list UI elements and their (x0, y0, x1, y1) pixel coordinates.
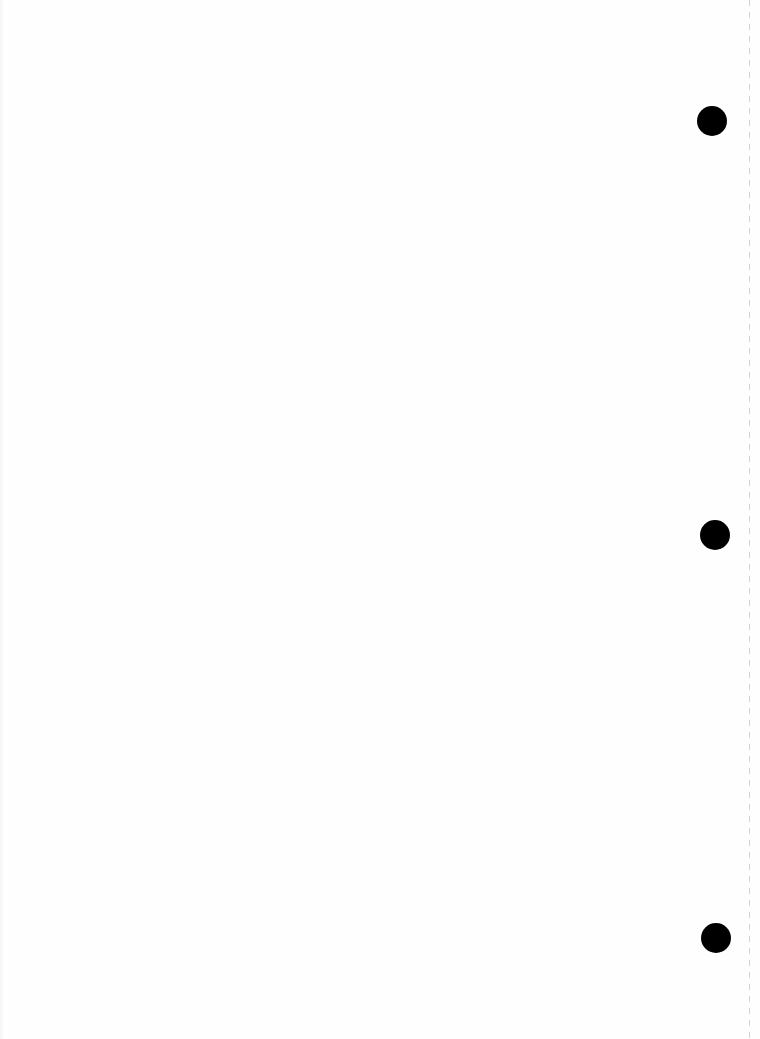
scanned-page (0, 0, 760, 1039)
punch-hole-middle-icon (700, 520, 730, 550)
punch-hole-top-icon (697, 106, 727, 136)
punch-hole-bottom-icon (701, 923, 731, 953)
page-left-edge-shadow (0, 0, 4, 1039)
page-edge-dashed-line (749, 0, 750, 1039)
